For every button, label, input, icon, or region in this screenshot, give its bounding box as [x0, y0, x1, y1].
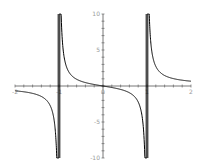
- y-tick-label: -10: [90, 154, 100, 161]
- x-tick-label: 0: [101, 88, 105, 95]
- curve-branch-0: [15, 91, 59, 158]
- y-tick-label: 10: [92, 10, 100, 17]
- x-tick-label: -1: [56, 88, 62, 95]
- y-tick-label: -5: [94, 118, 100, 125]
- function-plot: -2-1012-10-5510: [0, 0, 205, 166]
- y-tick-label: 5: [96, 46, 100, 53]
- curve-branch-2: [147, 14, 191, 81]
- x-tick-label: 2: [189, 88, 193, 95]
- x-tick-label: 1: [145, 88, 149, 95]
